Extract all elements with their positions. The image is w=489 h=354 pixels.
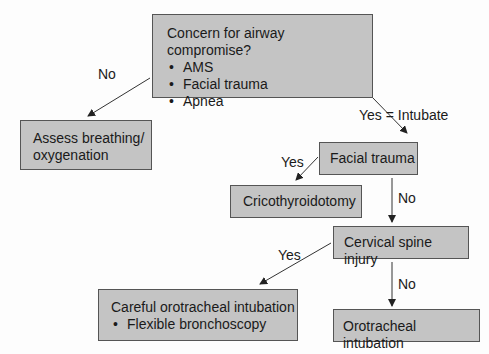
node-title: Concern for airway compromise? — [167, 25, 372, 59]
bullet-list: AMS Facial trauma Apnea — [167, 59, 372, 110]
node-title: Facial trauma — [330, 150, 415, 166]
node-title: Careful orotracheal intubation — [111, 299, 297, 316]
airway-flowchart: Concern for airway compromise? AMS Facia… — [0, 0, 489, 354]
bullet-list: Flexible bronchoscopy — [111, 316, 297, 333]
node-title: Cricothyroidotomy — [243, 193, 356, 209]
node-cricothyroidotomy: Cricothyroidotomy — [230, 185, 362, 218]
node-cervical-spine-injury: Cervical spine injury — [333, 226, 469, 259]
edge-label-yes: Yes — [281, 154, 304, 170]
node-assess-breathing: Assess breathing/ oxygenation — [20, 120, 152, 170]
edge-label-no: No — [98, 66, 116, 82]
bullet-item: AMS — [167, 59, 372, 76]
bullet-item: Apnea — [167, 93, 372, 110]
node-line: Assess breathing/ — [33, 130, 151, 147]
edge-label-no: No — [398, 276, 416, 292]
node-airway-compromise: Concern for airway compromise? AMS Facia… — [152, 14, 373, 98]
edge-label-yes-intubate: Yes = Intubate — [359, 107, 448, 123]
bullet-item: Facial trauma — [167, 76, 372, 93]
edge-label-no: No — [398, 190, 416, 206]
bullet-item: Flexible bronchoscopy — [111, 316, 297, 333]
node-facial-trauma: Facial trauma — [319, 142, 418, 175]
node-careful-intubation: Careful orotracheal intubation Flexible … — [98, 289, 298, 341]
edge-label-yes: Yes — [278, 247, 301, 263]
node-orotracheal-intubation: Orotracheal intubation — [333, 309, 480, 342]
node-line: oxygenation — [33, 147, 151, 164]
